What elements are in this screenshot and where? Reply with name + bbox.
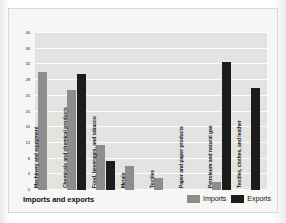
y-axis-tick: 4 xyxy=(28,172,30,176)
category-label: Textiles, clothes, and leather xyxy=(237,120,242,188)
y-axis-tick: 12 xyxy=(26,141,30,145)
bar-group: Food, beverages, and tobacco xyxy=(96,33,125,190)
category-label: Food, beverages, and tobacco xyxy=(92,116,97,188)
chart-figure: 0481216202428323640 Machinery and equipm… xyxy=(0,0,286,223)
chart-card: 0481216202428323640 Machinery and equipm… xyxy=(8,8,278,213)
category-label: Petroleum and natural gas xyxy=(208,125,213,188)
y-axis-tick: 20 xyxy=(26,109,30,113)
legend-label-exports: Exports xyxy=(247,194,271,203)
bar-imports xyxy=(96,145,105,190)
category-label: Chemicals and chemical products xyxy=(63,107,68,188)
bar-imports xyxy=(38,72,47,190)
bar-exports xyxy=(106,161,115,190)
chart-footer: Imports and exports Imports Exports xyxy=(9,188,279,212)
bar-series-container: Machinery and equipmentChemicals and che… xyxy=(35,33,267,190)
bar-imports xyxy=(67,90,76,190)
y-axis-tick: 28 xyxy=(26,78,30,82)
chart-legend: Imports Exports xyxy=(187,194,271,203)
legend-label-imports: Imports xyxy=(203,194,226,203)
y-axis-tick: 24 xyxy=(26,94,30,98)
bar-imports xyxy=(125,166,134,190)
legend-item-exports: Exports xyxy=(231,194,271,203)
bar-group: Textiles, clothes, and leather xyxy=(241,33,270,190)
legend-item-imports: Imports xyxy=(187,194,226,203)
bar-group: Metals xyxy=(125,33,154,190)
category-label: Paper and paper products xyxy=(179,126,184,188)
category-label: Machinery and equipment xyxy=(34,126,39,188)
chart-title: Imports and exports xyxy=(23,195,94,204)
y-axis-tick: 36 xyxy=(26,47,30,51)
bar-exports xyxy=(222,62,231,190)
bar-exports xyxy=(77,74,86,190)
category-label: Metals xyxy=(121,172,126,188)
y-axis-tick: 32 xyxy=(26,62,30,66)
bar-exports xyxy=(251,88,260,190)
plot-area: Machinery and equipmentChemicals and che… xyxy=(35,33,267,190)
y-axis-tick: 40 xyxy=(26,31,30,35)
legend-swatch-exports xyxy=(231,195,244,203)
y-axis-tick: 16 xyxy=(26,125,30,129)
y-axis-tick: 8 xyxy=(28,156,30,160)
legend-swatch-imports xyxy=(187,195,200,203)
y-axis-tick-labels: 0481216202428323640 xyxy=(9,33,33,190)
category-label: Textiles xyxy=(150,170,155,188)
